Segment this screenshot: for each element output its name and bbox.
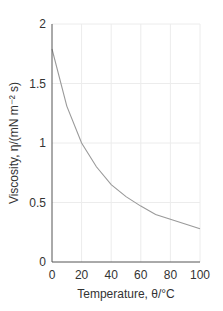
viscosity-chart: 00.511.52 020406080100 Temperature, θ/°C…: [0, 0, 223, 311]
y-tick-label: 2: [39, 17, 46, 31]
x-tick-label: 80: [164, 268, 178, 282]
y-tick-labels: 00.511.52: [29, 17, 46, 269]
y-tick-label: 1.5: [29, 77, 46, 91]
y-tick-label: 0: [39, 255, 46, 269]
x-tick-labels: 020406080100: [49, 268, 211, 282]
x-tick-label: 60: [134, 268, 148, 282]
x-tick-label: 100: [190, 268, 210, 282]
x-tick-label: 40: [105, 268, 119, 282]
x-axis-label: Temperature, θ/°C: [77, 287, 175, 301]
y-axis-label: Viscosity, η/(mN m⁻² s): [7, 82, 21, 204]
viscosity-curve: [52, 49, 200, 229]
x-tick-label: 0: [49, 268, 56, 282]
x-tick-label: 20: [75, 268, 89, 282]
y-tick-label: 1: [39, 136, 46, 150]
grid-lines: [52, 24, 200, 262]
y-tick-label: 0.5: [29, 196, 46, 210]
